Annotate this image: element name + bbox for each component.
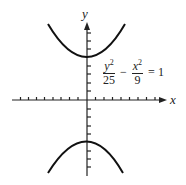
hyperbola-graph bbox=[0, 0, 186, 185]
x-axis-arrow-icon bbox=[159, 97, 167, 103]
minus-operator: − bbox=[120, 65, 127, 80]
x-exponent: 2 bbox=[138, 58, 142, 67]
y-exponent: 2 bbox=[110, 58, 114, 67]
right-hand-side: 1 bbox=[158, 65, 164, 80]
y-axis bbox=[87, 26, 91, 176]
y-denominator: 25 bbox=[103, 74, 115, 87]
equation-annotation: y2 25 − x2 9 = 1 bbox=[101, 59, 164, 87]
x-axis-label: x bbox=[170, 93, 176, 106]
y-axis-arrow-icon bbox=[84, 22, 90, 30]
y-axis-label: y bbox=[82, 7, 88, 20]
equals-sign: = bbox=[148, 65, 155, 80]
lower-branch-curve bbox=[48, 142, 123, 174]
fraction-y-term: y2 25 bbox=[103, 59, 115, 87]
x-denominator: 9 bbox=[134, 74, 140, 87]
fraction-x-term: x2 9 bbox=[132, 59, 143, 87]
